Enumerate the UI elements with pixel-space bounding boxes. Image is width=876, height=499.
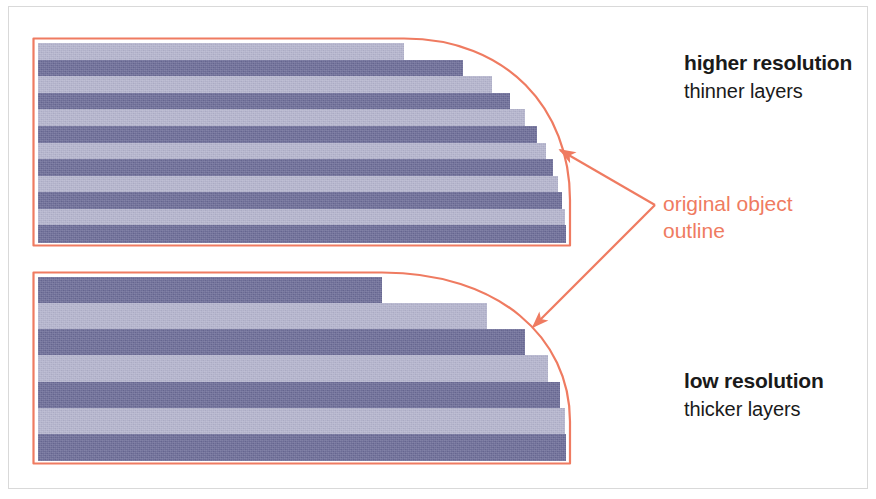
low-resolution-heading: low resolution — [684, 368, 824, 395]
low-res-layer-6 — [38, 408, 565, 435]
layer-grain-texture — [38, 355, 548, 382]
figure-root: higher resolution thinner layers origina… — [0, 0, 876, 499]
outline-label-line1: original object — [663, 190, 793, 217]
callout-original-object-outline: original object outline — [663, 190, 793, 245]
low-resolution-subtext: thicker layers — [684, 397, 824, 423]
low-res-layer-1 — [38, 277, 382, 304]
low-res-layer-3 — [38, 329, 525, 356]
low-res-layer-5 — [38, 382, 560, 409]
low-res-layer-4 — [38, 355, 548, 382]
low-res-layer-7 — [38, 434, 566, 461]
low-res-layer-2 — [38, 303, 487, 330]
layer-grain-texture — [38, 434, 566, 461]
callout-low-resolution: low resolution thicker layers — [684, 368, 824, 422]
layer-grain-texture — [38, 329, 525, 356]
layer-grain-texture — [38, 382, 560, 409]
layer-grain-texture — [38, 277, 382, 304]
layer-grain-texture — [38, 408, 565, 435]
higher-resolution-heading: higher resolution — [684, 50, 852, 77]
outline-label-line2: outline — [663, 217, 793, 244]
higher-resolution-subtext: thinner layers — [684, 79, 852, 105]
callout-higher-resolution: higher resolution thinner layers — [684, 50, 852, 104]
layer-grain-texture — [38, 303, 487, 330]
